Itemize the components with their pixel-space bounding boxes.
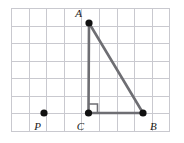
point-P	[40, 109, 47, 116]
segment-AC	[89, 23, 90, 113]
point-C	[85, 109, 92, 116]
figure-canvas: A B C P	[0, 0, 184, 143]
label-P: P	[33, 120, 41, 132]
geometry-figure: A B C P	[0, 0, 184, 143]
label-A: A	[74, 7, 82, 19]
point-B	[139, 109, 146, 116]
label-B: B	[150, 120, 157, 132]
label-C: C	[77, 120, 85, 132]
point-A	[85, 19, 92, 26]
